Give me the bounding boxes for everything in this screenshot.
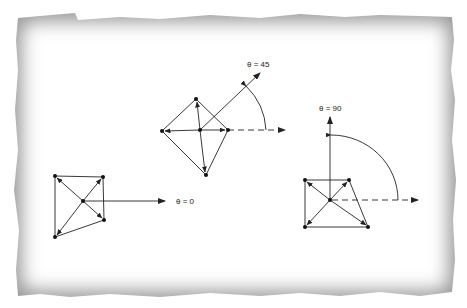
node (226, 128, 230, 132)
node (102, 218, 106, 222)
node-center (328, 198, 332, 202)
node (53, 174, 57, 178)
node (303, 178, 307, 182)
node (347, 178, 351, 182)
node-center (81, 199, 85, 203)
frame-inner (48, 50, 420, 268)
node (101, 175, 105, 179)
label-theta-0: θ = 0 (176, 197, 195, 206)
torn-paper-frame (14, 13, 456, 297)
node-center (198, 128, 202, 132)
rotation-diagram: θ = 0 θ = 45 (0, 0, 467, 308)
node (303, 225, 307, 229)
node (204, 173, 208, 177)
label-theta-90: θ = 90 (319, 104, 342, 113)
node (53, 235, 57, 239)
node (194, 97, 198, 101)
label-theta-45: θ = 45 (247, 60, 270, 69)
node (160, 129, 164, 133)
node (366, 225, 370, 229)
